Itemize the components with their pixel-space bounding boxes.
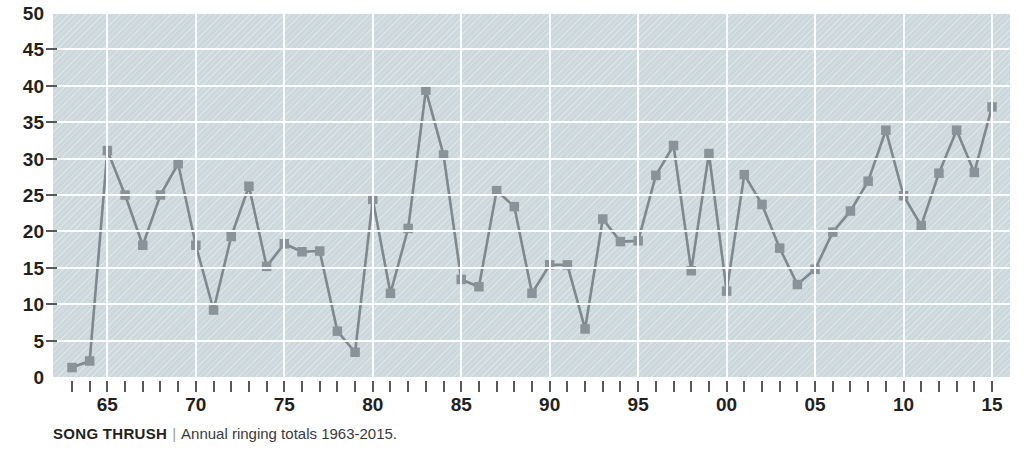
y-tick-mark: [46, 267, 57, 269]
gridline-vertical: [106, 13, 108, 377]
x-tick-mark: [743, 381, 745, 392]
x-tick-label: 05: [804, 395, 825, 414]
data-point-marker: [881, 125, 891, 134]
x-tick-mark: [531, 381, 533, 392]
x-tick-mark: [71, 381, 73, 392]
data-point-marker: [934, 168, 944, 178]
data-point-marker: [226, 232, 236, 242]
x-tick-label: 95: [628, 395, 649, 414]
data-point-marker: [527, 289, 537, 299]
y-tick-label: 35: [0, 113, 44, 132]
data-point-marker: [67, 363, 77, 373]
x-tick-mark: [991, 381, 993, 392]
x-tick-label: 85: [451, 395, 472, 414]
x-tick-mark: [159, 381, 161, 392]
x-tick-label: 75: [274, 395, 295, 414]
x-tick-mark: [920, 381, 922, 392]
data-point-marker: [297, 247, 307, 257]
caption-description: Annual ringing totals 1963-2015.: [181, 425, 397, 442]
gridline-vertical: [195, 13, 197, 377]
gridline-vertical: [460, 13, 462, 377]
x-tick-mark: [177, 381, 179, 392]
y-tick-label: 45: [0, 40, 44, 59]
plot-area: [53, 13, 1010, 377]
y-tick-mark: [46, 340, 57, 342]
x-tick-mark: [106, 381, 108, 392]
x-tick-mark: [779, 381, 781, 392]
data-point-marker: [580, 324, 590, 334]
y-tick-label: 25: [0, 186, 44, 205]
figure-caption: SONG THRUSH|Annual ringing totals 1963-2…: [53, 425, 397, 443]
x-tick-mark: [832, 381, 834, 392]
x-tick-mark: [389, 381, 391, 392]
data-point-marker: [651, 171, 661, 181]
data-point-marker: [138, 240, 148, 250]
data-point-marker: [793, 280, 803, 290]
x-tick-mark: [301, 381, 303, 392]
gridline-vertical: [637, 13, 639, 377]
x-tick-mark: [213, 381, 215, 392]
caption-separator: |: [167, 425, 181, 442]
y-tick-mark: [46, 121, 57, 123]
y-tick-label: 50: [0, 4, 44, 23]
x-tick-mark: [248, 381, 250, 392]
chart-figure: 05101520253035404550 6570758085909500051…: [0, 0, 1032, 451]
y-tick-label: 0: [0, 368, 44, 387]
data-point-marker: [598, 214, 608, 224]
gridline-vertical: [991, 13, 993, 377]
x-tick-mark: [903, 381, 905, 392]
data-point-marker: [386, 289, 396, 299]
x-tick-mark: [619, 381, 621, 392]
data-point-marker: [952, 125, 962, 134]
x-tick-mark: [602, 381, 604, 392]
data-point-marker: [209, 305, 219, 315]
y-tick-label: 40: [0, 76, 44, 95]
gridline-vertical: [903, 13, 905, 377]
x-tick-mark: [549, 381, 551, 392]
y-tick-mark: [46, 303, 57, 305]
x-tick-label: 00: [716, 395, 737, 414]
x-tick-label: 65: [97, 395, 118, 414]
y-tick-label: 10: [0, 295, 44, 314]
data-point-marker: [669, 141, 679, 151]
data-point-marker: [474, 282, 484, 292]
y-tick-mark: [46, 48, 57, 50]
y-tick-mark: [46, 85, 57, 87]
x-tick-mark: [496, 381, 498, 392]
x-tick-mark: [266, 381, 268, 392]
x-tick-mark: [885, 381, 887, 392]
x-tick-mark: [319, 381, 321, 392]
x-tick-mark: [283, 381, 285, 392]
data-point-marker: [421, 85, 431, 95]
x-tick-mark: [867, 381, 869, 392]
x-tick-mark: [938, 381, 940, 392]
x-tick-mark: [124, 381, 126, 392]
x-tick-mark: [354, 381, 356, 392]
y-tick-label: 5: [0, 331, 44, 350]
y-tick-mark: [46, 230, 57, 232]
x-tick-mark: [584, 381, 586, 392]
x-tick-mark: [372, 381, 374, 392]
x-tick-mark: [336, 381, 338, 392]
data-point-marker: [616, 237, 626, 247]
x-tick-mark: [814, 381, 816, 392]
data-point-marker: [244, 182, 254, 192]
x-tick-mark: [443, 381, 445, 392]
x-tick-mark: [973, 381, 975, 392]
data-point-marker: [173, 159, 183, 169]
x-tick-mark: [478, 381, 480, 392]
x-tick-label: 80: [362, 395, 383, 414]
caption-species: SONG THRUSH: [53, 425, 167, 442]
x-tick-mark: [460, 381, 462, 392]
x-tick-mark: [142, 381, 144, 392]
x-tick-mark: [849, 381, 851, 392]
y-tick-label: 20: [0, 222, 44, 241]
data-point-marker: [863, 176, 873, 186]
gridline-vertical: [283, 13, 285, 377]
gridline-vertical: [814, 13, 816, 377]
x-tick-mark: [230, 381, 232, 392]
x-tick-label: 70: [185, 395, 206, 414]
data-point-marker: [510, 202, 520, 212]
gridline-vertical: [549, 13, 551, 377]
y-tick-mark: [46, 194, 57, 196]
